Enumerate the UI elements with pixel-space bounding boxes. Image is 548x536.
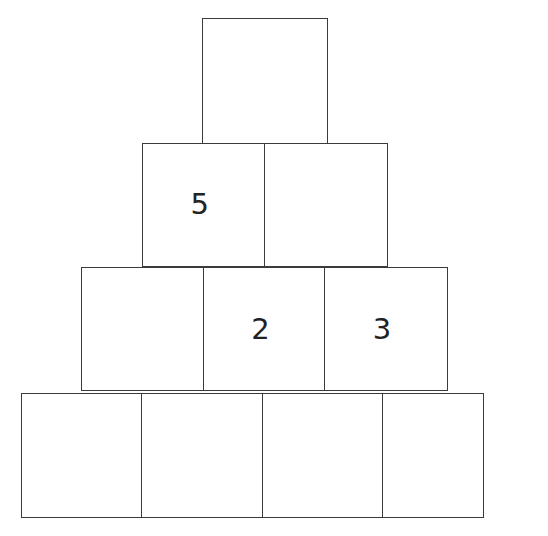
- pyramid-cell-r4c2[interactable]: [141, 393, 263, 519]
- pyramid-cell-r4c3[interactable]: [262, 393, 384, 519]
- pyramid-cell-r2c2[interactable]: [264, 143, 388, 266]
- pyramid-cell-value: 3: [373, 315, 391, 344]
- number-pyramid-figure: 5 2 3: [0, 0, 548, 536]
- pyramid-row-2: 5: [142, 143, 389, 266]
- pyramid-cell-r2c1[interactable]: 5: [142, 143, 266, 266]
- pyramid-cell-r3c3[interactable]: 3: [324, 267, 447, 391]
- pyramid-cell-value: 2: [251, 315, 269, 344]
- pyramid-row-3: 2 3: [81, 267, 451, 391]
- pyramid-cell-r4c4[interactable]: [382, 393, 485, 519]
- pyramid-cell-r3c1[interactable]: [81, 267, 204, 391]
- pyramid-cell-r4c1[interactable]: [21, 393, 143, 519]
- pyramid-cell-r3c2[interactable]: 2: [203, 267, 326, 391]
- pyramid-cell-r1c1[interactable]: [202, 18, 328, 145]
- pyramid-row-4: [21, 393, 486, 519]
- pyramid-row-1: [202, 18, 328, 145]
- pyramid-cell-value: 5: [191, 190, 209, 219]
